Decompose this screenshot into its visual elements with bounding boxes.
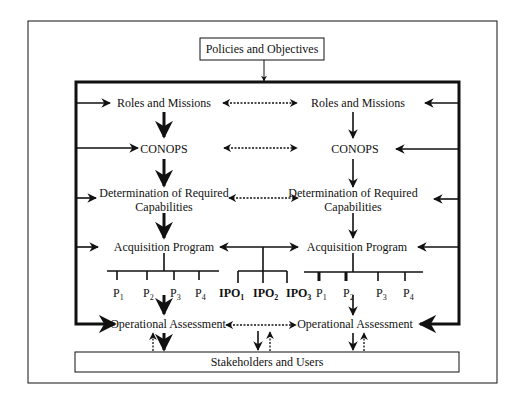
ipo-tree (238, 247, 287, 283)
stakeholders-box: Stakeholders and Users (75, 352, 459, 372)
right-roles-label: Roles and Missions (311, 96, 405, 110)
left-assessment-label: Operational Assessment (110, 317, 226, 331)
right-program-p3: P3 (376, 286, 387, 302)
right-assessment-label: Operational Assessment (297, 317, 413, 331)
left-conops-label: CONOPS (140, 142, 187, 156)
right-capabilities-label-line1: Determination of Required (288, 186, 417, 200)
outer-frame (28, 21, 497, 383)
left-capabilities-label-line1: Determination of Required (99, 186, 228, 200)
right-program-tree (304, 253, 423, 281)
left-program-tree (107, 253, 219, 280)
left-capabilities-label-line2: Capabilities (135, 200, 193, 214)
ipo-2: IPO2 (253, 286, 278, 302)
right-program-p2: P2 (343, 286, 354, 302)
left-program-p2: P2 (143, 286, 154, 302)
ipo-3: IPO3 (286, 286, 311, 302)
right-conops-label: CONOPS (331, 142, 378, 156)
diagram-canvas: Policies and Objectives Roles and Missio… (0, 0, 524, 405)
left-program-p1: P1 (113, 286, 124, 302)
left-program-p4: P4 (195, 286, 206, 302)
stakeholders-label: Stakeholders and Users (211, 355, 324, 369)
policies-box: Policies and Objectives (200, 38, 324, 60)
left-acquisition-label: Acquisition Program (114, 240, 215, 254)
right-capabilities-label-line2: Capabilities (324, 200, 382, 214)
left-program-p3: P3 (170, 286, 181, 302)
policies-label: Policies and Objectives (206, 42, 319, 56)
right-program-p4: P4 (403, 286, 414, 302)
right-acquisition-label: Acquisition Program (307, 240, 408, 254)
right-program-p1: P1 (316, 286, 327, 302)
ipo-1: IPO1 (219, 286, 244, 302)
left-roles-label: Roles and Missions (117, 96, 211, 110)
